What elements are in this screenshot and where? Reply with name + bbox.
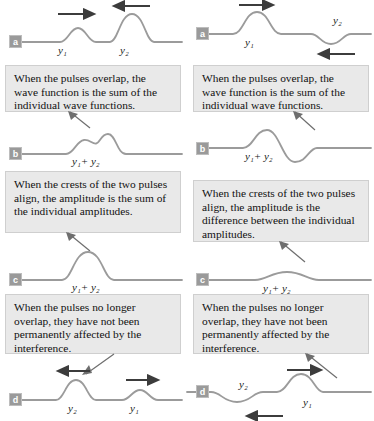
wave-panel-d: d y₂ y₁ [0,366,187,421]
wave-panel-b: b y₁+ y₂ [187,124,374,170]
wave-panel-a: a y₁ y₂ [187,0,374,62]
wave-label-y1: y₁ [58,44,67,56]
wave-label-y1: y₁ [130,402,139,414]
wave-label-y2: y₂ [120,44,129,56]
arrow-left-y2 [247,412,283,421]
panel-badge-c: c [9,273,22,286]
callout-text: When the crests of the two pulses align,… [14,178,172,219]
arrow-left-y2 [319,50,355,59]
wave-label-y2: y₂ [333,14,342,26]
wave-panel-a: a y₁ y₂ [0,0,187,62]
callout-crests-align-difference: When the crests of the two pulses align,… [193,180,369,242]
panel-badge-b: b [9,147,22,160]
arrow-right-y1 [239,1,273,10]
wave-curve-d [0,366,187,421]
arrow-left-y2 [58,367,90,376]
panel-badge-c: c [196,273,209,286]
callout-crests-align-sum: When the crests of the two pulses align,… [5,171,181,233]
panel-badge-d: d [196,385,209,398]
wave-label-y1: y₁ [245,36,254,48]
wave-curve-b [187,124,374,170]
callout-text: When the pulses overlap, the wave functi… [202,72,360,113]
column-constructive: a y₁ y₂ When the pulses overlap, the wav… [0,0,187,421]
arrow-left-y2 [114,2,150,11]
wave-label-y1-plus-y2: y₁+ y₂ [72,155,100,167]
wave-label-y1-plus-y2: y₁+ y₂ [72,281,100,293]
wave-label-y2: y₂ [239,378,248,390]
panel-badge-a: a [9,35,22,48]
arrow-right-y1 [126,376,158,385]
wave-curve-a [0,0,187,62]
callout-text: When the pulses no longer overlap, they … [202,301,360,355]
wave-curve-d [187,366,374,421]
wave-curve-a [187,0,374,62]
callout-no-longer-overlap: When the pulses no longer overlap, they … [193,294,369,354]
arrow-right-y1 [58,10,94,19]
wave-interference-figure: a y₁ y₂ When the pulses overlap, the wav… [0,0,374,421]
wave-panel-b: b y₁+ y₂ [0,124,187,164]
arrow-right-y1 [287,366,321,375]
panel-badge-d: d [9,393,22,406]
column-destructive: a y₁ y₂ When the pulses overlap, the wav… [187,0,374,421]
wave-panel-d: d y₂ y₁ [187,366,374,421]
panel-badge-b: b [196,142,209,155]
wave-label-y1-plus-y2: y₁+ y₂ [245,150,273,162]
callout-text: When the pulses overlap, the wave functi… [14,72,172,113]
wave-panel-c: c y₁+ y₂ [187,256,374,294]
callout-text: When the pulses no longer overlap, they … [14,301,172,355]
callout-overlap-sum: When the pulses overlap, the wave functi… [193,65,369,112]
wave-panel-c: c y₁+ y₂ [0,246,187,290]
callout-overlap-sum: When the pulses overlap, the wave functi… [5,65,181,112]
wave-label-y2: y₂ [68,402,77,414]
callout-no-longer-overlap: When the pulses no longer overlap, they … [5,294,181,354]
wave-label-y1-plus-y2: y₁+ y₂ [263,282,291,294]
wave-label-y1: y₁ [303,396,312,408]
panel-badge-a: a [196,27,209,40]
callout-text: When the crests of the two pulses align,… [202,187,360,241]
